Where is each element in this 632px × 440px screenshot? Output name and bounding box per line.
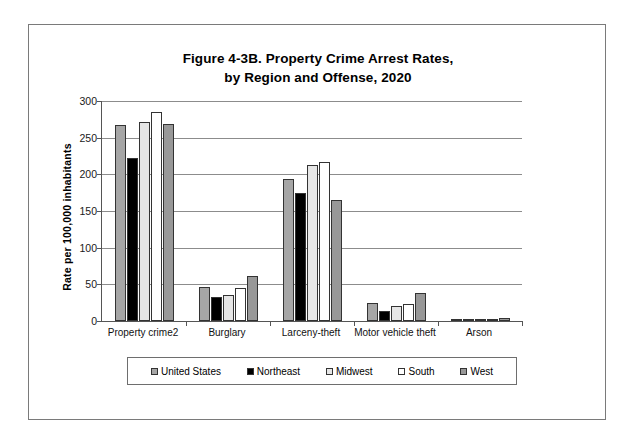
category-label: Arson	[466, 327, 492, 338]
bar	[451, 319, 462, 321]
bar	[403, 304, 414, 321]
legend-item: Northeast	[247, 366, 300, 377]
x-axis-tick	[354, 321, 355, 326]
legend-label: South	[408, 366, 434, 377]
bar	[487, 319, 498, 321]
legend-swatch-icon	[398, 368, 405, 375]
category-label: Property crime2	[108, 327, 179, 338]
bar	[199, 287, 210, 321]
legend-item: West	[460, 366, 493, 377]
legend-label: United States	[161, 366, 221, 377]
chart-legend: United StatesNortheastMidwestSouthWest	[127, 357, 517, 385]
bar-group	[102, 101, 186, 321]
x-axis-tick	[438, 321, 439, 326]
bar	[379, 311, 390, 321]
bar	[367, 303, 378, 321]
category-label: Burglary	[208, 327, 245, 338]
bar	[139, 122, 150, 321]
bar	[283, 179, 294, 321]
plot-wrapper: Rate per 100,000 inhabitants 05010015020…	[29, 25, 607, 421]
x-axis-tick	[186, 321, 187, 326]
bar-group	[270, 101, 354, 321]
bar	[223, 295, 234, 321]
bar	[331, 200, 342, 321]
legend-item: United States	[151, 366, 221, 377]
y-axis-tick-labels: 050100150200250300	[69, 101, 97, 321]
plot-area	[101, 101, 521, 321]
bar	[319, 162, 330, 321]
figure-frame: Figure 4-3B. Property Crime Arrest Rates…	[28, 24, 606, 420]
bar	[151, 112, 162, 321]
bar	[391, 306, 402, 321]
legend-label: West	[470, 366, 493, 377]
y-axis-tick-label: 250	[79, 132, 97, 144]
legend-label: Midwest	[336, 366, 373, 377]
bar	[415, 293, 426, 321]
legend-swatch-icon	[247, 368, 254, 375]
category-label: Motor vehicle theft	[354, 327, 436, 338]
bar	[115, 125, 126, 321]
y-axis-tick	[97, 321, 102, 322]
bar-group	[186, 101, 270, 321]
bar	[295, 193, 306, 321]
bar	[463, 319, 474, 321]
legend-swatch-icon	[326, 368, 333, 375]
x-axis-tick	[522, 321, 523, 326]
legend-swatch-icon	[460, 368, 467, 375]
y-axis-tick-label: 150	[79, 205, 97, 217]
y-axis-tick-label: 100	[79, 242, 97, 254]
category-label: Larceny-theft	[282, 327, 340, 338]
legend-item: South	[398, 366, 434, 377]
bar-group	[354, 101, 438, 321]
y-axis-tick-label: 300	[79, 95, 97, 107]
y-axis-tick-label: 200	[79, 168, 97, 180]
bar	[127, 158, 138, 321]
bar	[211, 297, 222, 321]
gridline	[102, 321, 522, 322]
legend-swatch-icon	[151, 368, 158, 375]
bar	[247, 276, 258, 321]
bar-group	[438, 101, 522, 321]
bar	[307, 165, 318, 321]
bar	[475, 319, 486, 321]
x-axis-tick	[270, 321, 271, 326]
y-axis-tick-label: 50	[85, 278, 97, 290]
bar	[163, 124, 174, 321]
legend-item: Midwest	[326, 366, 373, 377]
bar	[235, 288, 246, 321]
legend-label: Northeast	[257, 366, 300, 377]
bar	[499, 318, 510, 321]
